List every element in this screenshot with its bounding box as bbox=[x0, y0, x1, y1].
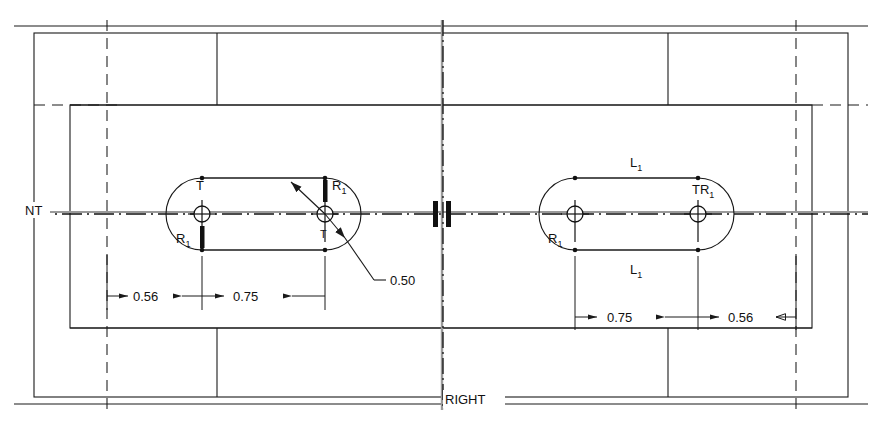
right-dimension-value-075: 0.75 bbox=[607, 310, 632, 325]
node-right-top bbox=[323, 176, 328, 181]
right-length-bottom-label: L1 bbox=[630, 262, 642, 280]
radius-leader-upper-arrow bbox=[291, 182, 325, 214]
center-net-post-left bbox=[433, 201, 438, 227]
node-r-right-bottom bbox=[696, 248, 701, 253]
drawing-canvas: T R1 R1 T 0.50 L1 L1 R1 TR1 bbox=[0, 0, 882, 424]
radius-leader-lower-arrow bbox=[325, 214, 345, 238]
left-dimension-value-056: 0.56 bbox=[133, 289, 158, 304]
right-length-top-label: L1 bbox=[630, 155, 642, 173]
net-vertical-centerline-group bbox=[442, 20, 443, 410]
left-tangent-top-label: T bbox=[196, 178, 204, 193]
left-radius-bottom-label: R1 bbox=[176, 231, 190, 249]
left-post-a-center-mark bbox=[188, 200, 216, 248]
court-drawing-svg: T R1 R1 T 0.50 L1 L1 R1 TR1 bbox=[0, 0, 882, 424]
node-r-left-top bbox=[573, 176, 578, 181]
right-post-b-center-mark bbox=[684, 200, 712, 242]
radius-leader-group bbox=[291, 182, 386, 280]
right-tangent-radius-label: TR1 bbox=[692, 182, 714, 200]
left-tangent-bottom-label: T bbox=[320, 228, 327, 240]
radius-leader-value: 0.50 bbox=[390, 273, 415, 288]
node-left-bottom bbox=[200, 248, 205, 253]
node-r-right-top bbox=[696, 176, 701, 181]
baseline-right-label: RIGHT bbox=[445, 392, 486, 407]
right-post-a-center-mark bbox=[561, 200, 589, 242]
line-text-labels: NT RIGHT bbox=[24, 202, 505, 408]
center-net-post-right bbox=[446, 201, 451, 227]
radius-leader-line bbox=[345, 238, 374, 280]
node-r-left-bottom bbox=[573, 248, 578, 253]
left-dimension-value-075: 0.75 bbox=[233, 289, 258, 304]
node-right-bottom bbox=[323, 248, 328, 253]
net-line-label: NT bbox=[25, 203, 42, 218]
right-dimension-value-056: 0.56 bbox=[728, 310, 753, 325]
left-radius-top-label: R1 bbox=[332, 178, 346, 196]
right-radius-inner-label: R1 bbox=[548, 231, 562, 249]
left-post-a-bar bbox=[200, 226, 205, 248]
left-post-b-bar bbox=[323, 180, 328, 202]
